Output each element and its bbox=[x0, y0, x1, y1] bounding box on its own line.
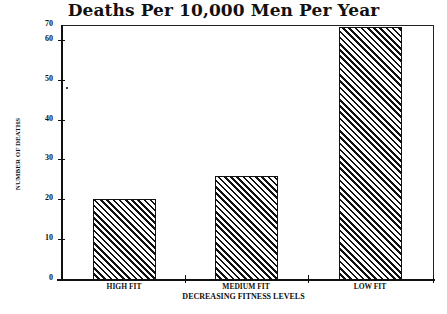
y-tick bbox=[58, 40, 65, 41]
x-tick bbox=[185, 275, 186, 283]
y-axis-label: NUMBER OF DEATHS bbox=[14, 104, 22, 204]
y-tick-label: 60 bbox=[26, 34, 53, 43]
y-tick bbox=[58, 239, 65, 240]
stray-mark bbox=[66, 87, 68, 89]
bar-high-fit bbox=[93, 199, 156, 280]
x-tick bbox=[433, 275, 434, 283]
category-label-high-fit: HIGH FIT bbox=[79, 282, 169, 291]
y-tick-label: 70 bbox=[26, 19, 53, 28]
category-label-medium-fit: MEDIUM FIT bbox=[201, 282, 291, 291]
category-label-low-fit: LOW FIT bbox=[325, 282, 415, 291]
x-tick bbox=[308, 275, 309, 283]
y-tick-label: 10 bbox=[26, 233, 53, 242]
y-tick-label: 0 bbox=[26, 273, 53, 282]
bar-low-fit bbox=[339, 27, 402, 280]
y-axis bbox=[61, 25, 63, 281]
y-tick bbox=[58, 159, 65, 160]
bar-medium-fit bbox=[215, 176, 278, 280]
y-tick bbox=[58, 279, 65, 280]
y-tick-label: 20 bbox=[26, 193, 53, 202]
chart-title: Deaths Per 10,000 Men Per Year bbox=[0, 0, 447, 20]
y-tick-label: 40 bbox=[26, 114, 53, 123]
x-axis-label: DECREASING FITNESS LEVELS bbox=[0, 292, 447, 301]
y-tick-label: 50 bbox=[26, 74, 53, 83]
y-tick bbox=[58, 80, 65, 81]
y-tick-label: 30 bbox=[26, 153, 53, 162]
y-tick bbox=[58, 199, 65, 200]
y-tick bbox=[58, 120, 65, 121]
